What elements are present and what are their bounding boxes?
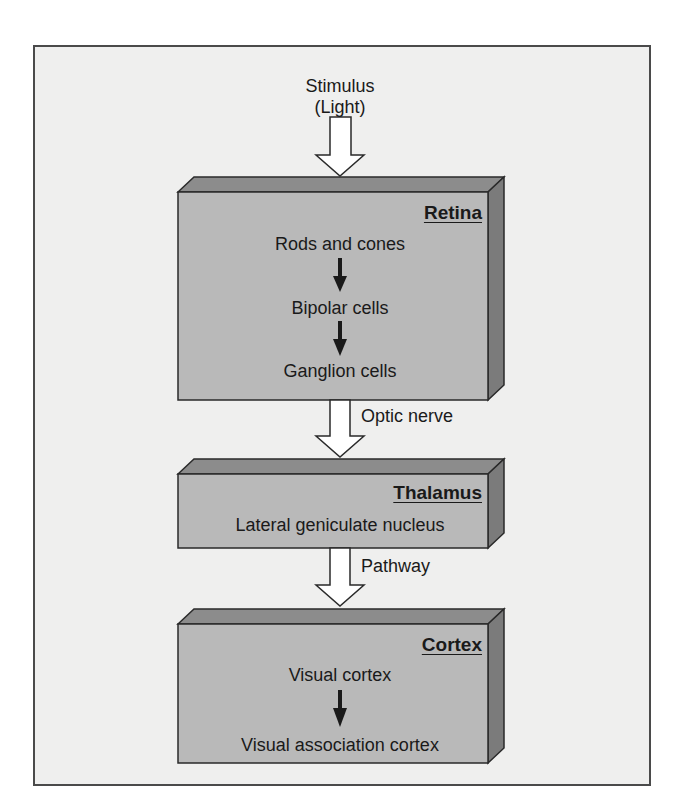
stimulus-sublabel: (Light) — [290, 96, 390, 118]
cortex-item-visual: Visual cortex — [178, 664, 502, 686]
retina-item-ganglion: Ganglion cells — [178, 360, 502, 382]
optic-nerve-arrow-icon — [316, 400, 364, 457]
pathway-label: Pathway — [361, 556, 430, 577]
diagram-shapes — [0, 0, 688, 812]
stimulus-label: Stimulus — [290, 75, 390, 97]
stimulus-arrow-icon — [316, 117, 364, 176]
retina-item-rods-cones: Rods and cones — [178, 233, 502, 255]
thalamus-title: Thalamus — [393, 482, 482, 504]
cortex-title: Cortex — [422, 634, 482, 656]
pathway-arrow-icon — [316, 548, 364, 606]
retina-item-bipolar: Bipolar cells — [178, 297, 502, 319]
cortex-item-association: Visual association cortex — [178, 734, 502, 756]
retina-title: Retina — [424, 202, 482, 224]
optic-nerve-label: Optic nerve — [361, 406, 453, 427]
thalamus-item-lgn: Lateral geniculate nucleus — [178, 514, 502, 536]
